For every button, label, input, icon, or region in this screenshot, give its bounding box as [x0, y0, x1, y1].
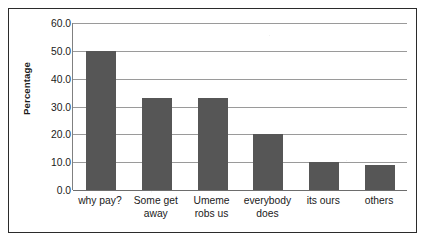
y-axis-tick: 0.0	[29, 185, 71, 196]
x-axis-tick-labels: why pay?Some get awayUmeme robs useveryb…	[72, 194, 407, 232]
bar-slot	[296, 23, 352, 190]
y-axis-tick: 40.0	[29, 73, 71, 84]
plot-area	[72, 23, 407, 190]
x-axis-tick: Some get away	[128, 194, 184, 220]
bar[interactable]	[253, 134, 283, 190]
bar-slot	[352, 23, 408, 190]
x-axis-tick: Umeme robs us	[184, 194, 240, 220]
bar[interactable]	[86, 51, 116, 190]
x-axis-tick: everybody does	[240, 194, 296, 220]
y-axis-tick: 20.0	[29, 129, 71, 140]
bar-slot	[185, 23, 241, 190]
y-axis-tick: 60.0	[29, 18, 71, 29]
bars-group	[73, 23, 407, 190]
y-axis-tick: 10.0	[29, 157, 71, 168]
bar-slot	[241, 23, 297, 190]
x-axis-tick: why pay?	[72, 194, 128, 207]
bar-chart-figure: Percentage 0.010.020.030.040.050.060.0 w…	[8, 8, 417, 233]
y-axis-tick: 50.0	[29, 45, 71, 56]
y-axis-tick-labels: 0.010.020.030.040.050.060.0	[29, 23, 71, 190]
bar-slot	[129, 23, 185, 190]
x-axis-tick: others	[351, 194, 407, 207]
bar[interactable]	[365, 165, 395, 190]
bar-slot	[73, 23, 129, 190]
bar[interactable]	[142, 98, 172, 190]
bar[interactable]	[309, 162, 339, 190]
y-axis-tick: 30.0	[29, 101, 71, 112]
x-axis-baseline	[73, 190, 407, 191]
bar[interactable]	[198, 98, 228, 190]
x-axis-tick: its ours	[295, 194, 351, 207]
